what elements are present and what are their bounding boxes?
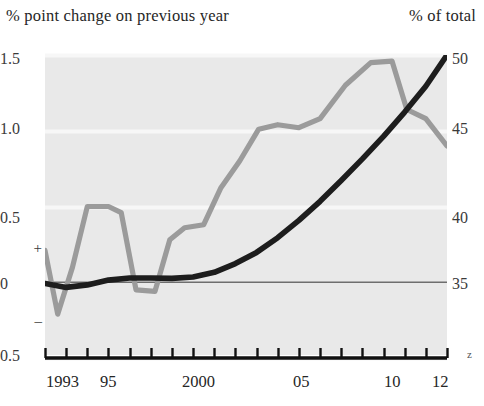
chart-figure: % point change on previous year % of tot… [0,0,484,406]
right-tick-50: 50 [452,50,484,68]
plus-sign-label: + [2,240,42,257]
left-tick-0: 0 [0,275,8,293]
left-tick-1.5: 1.5 [0,50,20,68]
right-tick-45: 45 [452,120,484,138]
left-axis-caption: % point change on previous year [6,6,229,26]
x-label-95: 95 [100,372,117,392]
plot-canvas [0,0,484,406]
x-label-1993: 1993 [46,372,79,392]
right-tick-40: 40 [452,209,484,227]
x-label-2000: 2000 [182,372,215,392]
right-axis-caption: % of total [409,6,476,26]
left-tick-1.0: 1.0 [0,120,20,138]
minus-sign-label: – [2,313,42,330]
x-label-05: 05 [293,372,310,392]
left-tick-neg0.5: 0.5 [0,347,20,365]
x-label-12: 12 [432,372,449,392]
left-tick-0.5: 0.5 [0,209,20,227]
x-label-10: 10 [384,372,401,392]
right-tick-35: 35 [452,275,484,293]
axis-corner-mark: z [467,348,472,360]
